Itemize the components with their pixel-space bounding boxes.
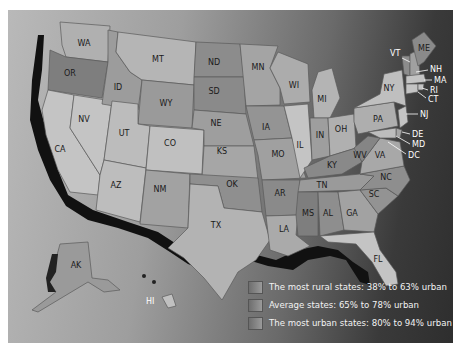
state-SD[interactable] <box>194 77 246 114</box>
label-OH: OH <box>335 125 347 134</box>
label-ME: ME <box>418 44 430 53</box>
label-WA: WA <box>78 39 91 48</box>
legend-item-urban: The most urban states: 80% to 94% urban <box>248 314 452 332</box>
state-HI[interactable] <box>162 294 176 308</box>
label-MI: MI <box>317 95 326 104</box>
label-SD: SD <box>208 87 219 96</box>
label-TN: TN <box>316 181 328 190</box>
state-AR[interactable] <box>262 180 300 216</box>
label-DC: DC <box>408 151 420 160</box>
label-AL: AL <box>323 209 333 218</box>
state-CT[interactable] <box>406 84 418 94</box>
label-NH: NH <box>430 65 442 74</box>
legend-swatch-average <box>248 299 263 312</box>
legend-label-rural: The most rural states: 38% to 63% urban <box>269 282 447 292</box>
label-NJ: NJ <box>420 110 428 119</box>
state-MI[interactable] <box>312 68 340 118</box>
label-CT: CT <box>428 95 439 104</box>
label-HI: HI <box>146 297 154 306</box>
label-WY: WY <box>160 99 173 108</box>
label-CA: CA <box>54 145 66 154</box>
label-IN: IN <box>316 131 324 140</box>
label-UT: UT <box>119 129 130 138</box>
label-IL: IL <box>297 141 304 150</box>
label-GA: GA <box>346 209 358 218</box>
label-NM: NM <box>154 185 167 194</box>
label-MN: MN <box>252 63 265 72</box>
label-NE: NE <box>210 119 221 128</box>
label-VA: VA <box>375 151 386 160</box>
label-WI: WI <box>289 81 299 90</box>
legend-swatch-urban <box>248 317 263 330</box>
label-CO: CO <box>164 139 176 148</box>
state-HI-islands <box>152 280 156 284</box>
label-AZ: AZ <box>111 181 122 190</box>
label-NV: NV <box>78 115 90 124</box>
label-MA: MA <box>434 76 447 85</box>
label-LA: LA <box>279 225 290 234</box>
label-RI: RI <box>430 86 438 95</box>
label-PA: PA <box>373 115 383 124</box>
label-FL: FL <box>373 255 383 264</box>
label-MD: MD <box>412 140 425 149</box>
label-SC: SC <box>369 190 380 199</box>
label-IA: IA <box>262 123 270 132</box>
label-AK: AK <box>71 261 82 270</box>
label-TX: TX <box>210 221 222 230</box>
map-panel: WA OR CA NV ID MT WY UT AZ CO NM ND SD N… <box>8 10 453 343</box>
label-DE: DE <box>412 130 423 139</box>
state-MA[interactable] <box>406 74 426 84</box>
legend-label-urban: The most urban states: 80% to 94% urban <box>269 318 452 328</box>
label-KY: KY <box>327 161 337 170</box>
label-MT: MT <box>152 55 164 64</box>
legend-item-rural: The most rural states: 38% to 63% urban <box>248 278 452 296</box>
legend: The most rural states: 38% to 63% urban … <box>248 278 452 332</box>
legend-item-average: Average states: 65% to 78% urban <box>248 296 452 314</box>
label-KS: KS <box>217 147 227 156</box>
label-NC: NC <box>380 173 392 182</box>
state-NM[interactable] <box>140 170 190 228</box>
label-NY: NY <box>384 84 395 93</box>
state-CO[interactable] <box>146 126 204 174</box>
state-NJ[interactable] <box>398 106 408 128</box>
label-MO: MO <box>271 150 284 159</box>
label-OK: OK <box>226 180 238 189</box>
state-AK[interactable] <box>32 242 120 312</box>
legend-swatch-rural <box>248 281 263 294</box>
state-HI-islands <box>142 274 146 278</box>
label-ID: ID <box>114 83 123 92</box>
label-OR: OR <box>64 69 76 78</box>
label-VT: VT <box>390 49 400 58</box>
label-WV: WV <box>353 151 367 160</box>
state-RI[interactable] <box>418 84 424 90</box>
label-AR: AR <box>274 189 285 198</box>
state-AZ[interactable] <box>96 160 146 222</box>
label-ND: ND <box>208 58 220 67</box>
state-NY[interactable] <box>354 70 406 108</box>
label-MS: MS <box>302 209 314 218</box>
legend-label-average: Average states: 65% to 78% urban <box>269 300 419 310</box>
